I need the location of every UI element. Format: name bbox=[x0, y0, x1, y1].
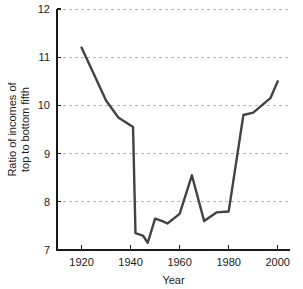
xtick-label-1920: 1920 bbox=[69, 256, 93, 268]
y-axis-title-line1: Ratio of incomes of bbox=[6, 81, 18, 176]
xtick-label-2000: 2000 bbox=[265, 256, 289, 268]
xtick-labels-group: 19201940196019802000 bbox=[69, 256, 290, 268]
ytick-labels-group: 789101112 bbox=[38, 3, 50, 256]
y-axis-title-line2: top to bottom fifth bbox=[19, 87, 31, 172]
income-ratio-line-chart: 19201940196019802000 789101112 YearRatio… bbox=[0, 0, 303, 289]
x-axis-title: Year bbox=[162, 274, 185, 286]
xtick-label-1940: 1940 bbox=[118, 256, 142, 268]
ytick-label-9: 9 bbox=[44, 148, 50, 160]
ytick-label-11: 11 bbox=[39, 51, 50, 63]
chart-canvas: 19201940196019802000 789101112 YearRatio… bbox=[0, 0, 303, 289]
ytick-label-7: 7 bbox=[44, 244, 50, 256]
data-series-group bbox=[82, 48, 278, 243]
ytick-label-8: 8 bbox=[44, 196, 50, 208]
xtick-label-1980: 1980 bbox=[216, 256, 240, 268]
axes-group bbox=[57, 9, 290, 250]
xtick-label-1960: 1960 bbox=[167, 256, 191, 268]
ytick-label-12: 12 bbox=[38, 3, 50, 15]
axis-spines bbox=[57, 9, 290, 250]
data-line-series-0 bbox=[82, 48, 278, 243]
ytick-label-10: 10 bbox=[38, 99, 50, 111]
gridlines-group bbox=[57, 9, 290, 202]
ticks-group bbox=[57, 9, 278, 250]
axis-titles-group: YearRatio of incomes oftop to bottom fif… bbox=[6, 81, 185, 286]
